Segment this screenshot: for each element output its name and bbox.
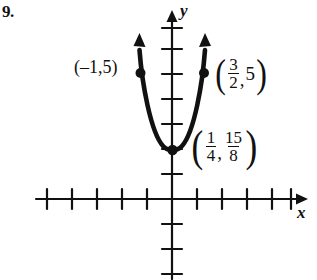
fraction-denominator: 2 <box>228 73 239 91</box>
point-label-right: ( 3 2 , 5 ) <box>214 56 268 92</box>
fraction-denominator: 8 <box>228 146 239 164</box>
data-point-vertex <box>167 145 177 155</box>
y-axis-arrowhead <box>167 10 178 22</box>
point-label-left: (–1,5) <box>74 58 118 76</box>
fraction-fifteen-eighths: 15 8 <box>224 129 243 165</box>
close-paren-vertex: ) <box>245 131 257 164</box>
fraction-one-fourth: 1 4 <box>206 129 217 165</box>
label-comma-right: , <box>240 70 245 92</box>
open-paren-vertex: ( <box>191 131 203 164</box>
fraction-numerator: 1 <box>206 129 217 146</box>
close-paren-right: ) <box>256 58 267 89</box>
coordinate-plane-graph <box>0 0 317 280</box>
open-paren-right: ( <box>215 58 226 89</box>
data-point-right <box>199 68 209 78</box>
fraction-denominator: 4 <box>206 146 217 164</box>
x-axis-label: x <box>297 203 306 223</box>
parabola-left-arrowhead <box>134 33 146 47</box>
y-axis-label: y <box>180 1 188 21</box>
fraction-numerator: 3 <box>228 56 239 73</box>
label-y-value-right: 5 <box>246 64 256 83</box>
fraction-three-halves: 3 2 <box>228 56 239 92</box>
fraction-numerator: 15 <box>224 129 243 146</box>
parabola-right-arrowhead <box>199 33 211 47</box>
data-point-left <box>136 68 146 78</box>
label-comma-vertex: , <box>217 143 222 165</box>
parabola-figure: 9. <box>0 0 317 280</box>
point-label-vertex: ( 1 4 , 15 8 ) <box>190 129 259 165</box>
